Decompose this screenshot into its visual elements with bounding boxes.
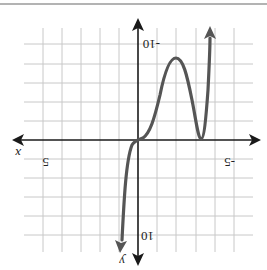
y-tick-label-top: -10 xyxy=(143,37,160,52)
y-axis-label: y xyxy=(119,254,127,269)
polynomial-graph: x y 5 -5 -10 10 xyxy=(0,0,267,270)
x-axis-label: x xyxy=(15,146,22,161)
y-tick-label-bottom: 10 xyxy=(141,229,154,244)
x-tick-label-left: 5 xyxy=(43,155,50,170)
x-tick-label-right: -5 xyxy=(224,155,235,170)
curve-arrow-down-icon xyxy=(115,240,127,253)
